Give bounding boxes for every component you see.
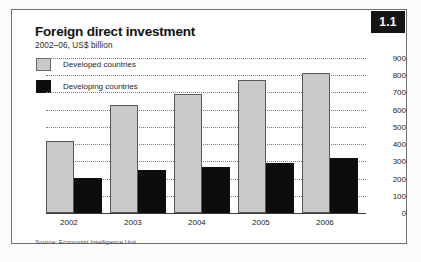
x-label-2002: 2002: [46, 218, 110, 227]
y-tick-label-700: 700: [372, 88, 406, 97]
gridline-0: [46, 213, 366, 214]
bar-group-2002: [46, 58, 110, 213]
y-tick-label-100: 100: [372, 191, 406, 200]
y-tick-label-400: 400: [372, 140, 406, 149]
y-tick-label-200: 200: [372, 174, 406, 183]
x-label-2006: 2006: [302, 218, 366, 227]
bar-2004-developed: [174, 94, 202, 213]
bar-series-container: [46, 58, 366, 213]
y-tick-label-800: 800: [372, 71, 406, 80]
x-label-2003: 2003: [110, 218, 174, 227]
y-tick-label-0: 0: [372, 209, 406, 218]
x-axis-labels: 20022003200420052006: [46, 218, 366, 227]
bar-group-2003: [110, 58, 174, 213]
bar-2002-developed: [46, 141, 74, 213]
y-tick-label-600: 600: [372, 105, 406, 114]
bar-2005-developed: [238, 80, 266, 213]
bar-2002-developing: [74, 178, 102, 213]
bar-2004-developing: [202, 167, 230, 213]
bar-2005-developing: [266, 163, 294, 213]
figure-page: 1.1 Foreign direct investment 2002–06, U…: [0, 0, 421, 262]
y-tick-label-300: 300: [372, 157, 406, 166]
figure-number-badge: 1.1: [371, 11, 405, 33]
chart-subtitle: 2002–06, US$ billion: [35, 41, 113, 50]
plot-area: 0100200300400500600700800900: [46, 58, 366, 213]
y-tick-label-900: 900: [372, 54, 406, 63]
x-label-2004: 2004: [174, 218, 238, 227]
bar-group-2004: [174, 58, 238, 213]
bar-2006-developing: [330, 158, 358, 213]
bar-2003-developed: [110, 105, 138, 214]
chart-title: Foreign direct investment: [35, 24, 195, 39]
y-tick-label-500: 500: [372, 122, 406, 131]
source-note: Source: Economist Intelligence Unit: [35, 238, 136, 245]
bar-group-2005: [238, 58, 302, 213]
bar-2006-developed: [302, 73, 330, 213]
x-label-2005: 2005: [238, 218, 302, 227]
chart-frame: 1.1 Foreign direct investment 2002–06, U…: [11, 9, 407, 244]
bar-group-2006: [302, 58, 366, 213]
bar-2003-developing: [138, 170, 166, 213]
